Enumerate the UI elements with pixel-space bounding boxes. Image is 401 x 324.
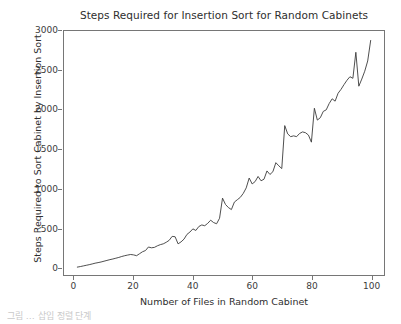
x-tick-mark (312, 276, 313, 280)
x-tick-label: 80 (306, 281, 317, 291)
plot-area (63, 30, 385, 276)
data-line-series (64, 31, 384, 275)
x-tick-label: 60 (247, 281, 258, 291)
x-tick-mark (133, 276, 134, 280)
x-axis-label: Number of Files in Random Cabinet (63, 296, 385, 307)
matplotlib-figure: Steps Required for Insertion Sort for Ra… (0, 0, 401, 324)
x-tick-mark (73, 276, 74, 280)
x-tick-mark (193, 276, 194, 280)
x-tick-mark (372, 276, 373, 280)
x-tick-mark (252, 276, 253, 280)
x-tick-label: 40 (187, 281, 198, 291)
clipped-caption-artifact: 그림 … 삽입 정렬 단계 (7, 311, 127, 321)
x-tick-label: 100 (363, 281, 380, 291)
y-axis-label: Steps Required to Sort Cabinet by Insert… (32, 24, 43, 274)
x-tick-label: 20 (127, 281, 138, 291)
x-tick-label: 0 (71, 281, 77, 291)
